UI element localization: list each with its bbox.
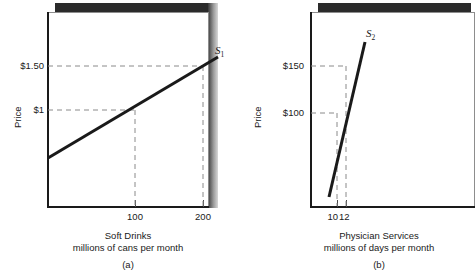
panel-b-xlabel-10: 10 <box>318 211 338 222</box>
panel-b-axis-title-price: Price <box>252 106 263 128</box>
panel-a-caption-units: millions of cans per month <box>28 242 228 254</box>
panel-b-ylabel-100: $100 <box>260 107 304 118</box>
panel-a-letter: (a) <box>28 259 228 270</box>
panel-b-caption-units: millions of days per month <box>287 242 471 254</box>
panel-a-ylabel-150: $1.50 <box>2 60 44 71</box>
panel-b-letter: (b) <box>287 259 471 270</box>
panel-b-xlabel-12: 12 <box>339 211 359 222</box>
panel-a-supply-curve-s1 <box>48 57 218 158</box>
panel-a-soft-drinks: S1 $1.50 $1 Price 100 200 Soft Drinks mi… <box>0 0 240 274</box>
panel-a-caption-title: Soft Drinks <box>28 230 228 242</box>
panel-b-caption-title: Physician Services <box>287 230 471 242</box>
panel-b-curve-label-s2: S2 <box>366 27 375 42</box>
panel-b-curve-label-s2-sub: 2 <box>372 33 376 42</box>
panel-a-xlabel-100: 100 <box>115 211 155 222</box>
panel-a-curve-label-s1-sub: 1 <box>221 50 225 59</box>
panel-a-curve-label-s1: S1 <box>215 44 224 59</box>
panel-b-supply-curve-s2 <box>329 42 365 197</box>
panel-a-ylabel-1: $1 <box>2 104 44 115</box>
panel-a-xlabel-200: 200 <box>183 211 223 222</box>
panel-b-ylabel-150: $150 <box>260 60 304 71</box>
panel-b-physician-services: S2 $150 $100 Price 10 12 Physician Servi… <box>232 0 471 274</box>
panel-a-axis-title-price: Price <box>12 106 23 128</box>
